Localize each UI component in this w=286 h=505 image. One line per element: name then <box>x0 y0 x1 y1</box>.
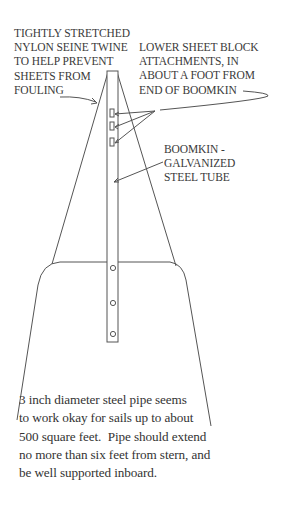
boomkin-label: BOOMKIN - GALVANIZED STEEL TUBE <box>164 142 235 185</box>
pipe-note: 3 inch diameter steel pipe seems to work… <box>19 391 210 482</box>
twine-line-left <box>52 72 108 264</box>
twine-label: TIGHTLY STRETCHED NYLON SEINE TWINE TO H… <box>14 26 130 97</box>
lower-sheet-block-label: LOWER SHEET BLOCK ATTACHMENTS, IN ABOUT … <box>139 40 258 97</box>
boomkin-leader <box>114 162 163 182</box>
boomkin-tube <box>107 71 118 342</box>
diagram-canvas: TIGHTLY STRETCHED NYLON SEINE TWINE TO H… <box>0 0 286 505</box>
leader-to-attachment-3 <box>115 111 155 143</box>
twine-leader-arrow <box>60 97 96 102</box>
